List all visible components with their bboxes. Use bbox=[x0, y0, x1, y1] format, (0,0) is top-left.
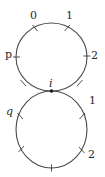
label-bottom-q: q bbox=[6, 105, 13, 118]
diagram-svg: 0 1 p 2 i q 1 2 bbox=[0, 0, 105, 177]
tick-bottom-1 bbox=[80, 113, 86, 119]
tick-top-lower-right bbox=[77, 80, 83, 86]
bottom-loop-ticks bbox=[18, 113, 86, 172]
bottom-loop bbox=[16, 91, 87, 168]
label-bottom-2: 2 bbox=[88, 148, 95, 161]
label-top-0: 0 bbox=[30, 9, 37, 22]
loop-diagram: 0 1 p 2 i q 1 2 bbox=[0, 0, 105, 177]
label-junction-i: i bbox=[49, 77, 53, 90]
label-top-2: 2 bbox=[91, 49, 98, 62]
label-top-1: 1 bbox=[66, 9, 73, 22]
tick-top-lower-left bbox=[21, 80, 27, 86]
label-top-p: p bbox=[5, 48, 12, 61]
label-bottom-1: 1 bbox=[89, 94, 96, 107]
